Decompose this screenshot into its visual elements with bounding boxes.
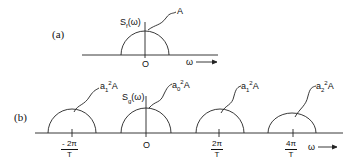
origin-label-a: O (142, 60, 149, 69)
peak-label-2: a12A (241, 80, 259, 93)
bump-2 (196, 109, 244, 133)
axis-label-b: ω (308, 143, 315, 152)
function-label-a: Sf(ω) (120, 18, 141, 29)
peak-label-a: A (177, 7, 183, 16)
bump-3 (268, 113, 316, 133)
panel-b-label: (b) (14, 112, 27, 123)
panel-a-label: (a) (52, 29, 64, 40)
tick-label-origin: O (143, 141, 150, 150)
peak-label-3: a22A (316, 80, 334, 93)
leader-a (148, 12, 176, 30)
function-label-b: Sg(ω) (122, 93, 144, 104)
peak-label-1: a12A (100, 80, 118, 93)
tick-label-neg-2pi: - 2π T (61, 140, 78, 159)
peak-label-0: a02A (172, 79, 190, 92)
axis-label-a: ω (186, 58, 193, 67)
tick-label-2pi: 2π T (211, 140, 223, 159)
tick-label-4pi: 4π T (285, 140, 297, 159)
